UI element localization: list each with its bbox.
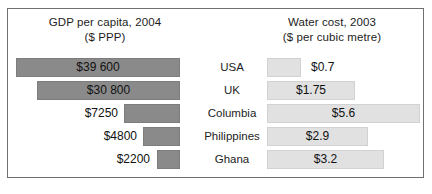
water-bar: $5.6: [267, 104, 420, 123]
chart-row: $4800 Philippines $2.9: [8, 127, 423, 147]
country-label: Columbia: [184, 104, 280, 123]
water-bar: [267, 58, 301, 77]
gdp-panel-units: ($ PPP): [14, 30, 196, 45]
gdp-panel-heading: GDP per capita, 2004 ($ PPP): [14, 15, 196, 45]
gdp-bar-track: $7250: [8, 104, 180, 124]
water-value-label: $0.7: [311, 58, 334, 77]
gdp-bar-track: $39 600: [8, 58, 180, 78]
water-panel-title: Water cost, 2003: [288, 16, 376, 28]
water-bar-track: $1.75: [267, 81, 423, 101]
gdp-bar: $39 600: [16, 58, 180, 77]
chart-row: $30 800 UK $1.75: [8, 81, 423, 101]
water-bar: $3.2: [267, 150, 384, 169]
gdp-value-label: $7250: [28, 104, 118, 123]
water-panel-units: ($ per cubic metre): [244, 30, 420, 45]
water-bar-track: $0.7: [267, 58, 423, 78]
gdp-bar: $30 800: [37, 81, 180, 100]
comparison-chart-figure: GDP per capita, 2004 ($ PPP) Water cost,…: [7, 8, 424, 178]
gdp-bar-track: $2200: [8, 150, 180, 170]
gdp-bar-track: $4800: [8, 127, 180, 147]
water-bar-track: $3.2: [267, 150, 423, 170]
country-label: Philippines: [184, 127, 280, 146]
gdp-panel-title: GDP per capita, 2004: [49, 16, 161, 28]
water-panel-heading: Water cost, 2003 ($ per cubic metre): [244, 15, 420, 45]
gdp-bar-track: $30 800: [8, 81, 180, 101]
water-bar: $2.9: [267, 127, 368, 146]
water-bar-track: $5.6: [267, 104, 423, 124]
gdp-value-label: $4800: [47, 127, 137, 146]
country-label: Ghana: [184, 150, 280, 169]
water-bar: $1.75: [267, 81, 355, 100]
country-label: USA: [184, 58, 280, 77]
gdp-value-label: $2200: [60, 150, 150, 169]
chart-row: $2200 Ghana $3.2: [8, 150, 423, 170]
gdp-bar: [143, 127, 180, 146]
gdp-bar: [157, 150, 180, 169]
water-bar-track: $2.9: [267, 127, 423, 147]
chart-row: $7250 Columbia $5.6: [8, 104, 423, 124]
gdp-bar: [124, 104, 180, 123]
country-label: UK: [184, 81, 280, 100]
chart-row: $39 600 USA $0.7: [8, 58, 423, 78]
